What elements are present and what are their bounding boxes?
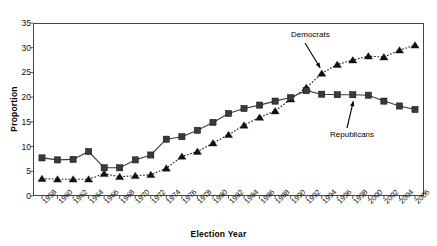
data-point-democrats bbox=[395, 47, 403, 53]
data-point-democrats bbox=[193, 148, 201, 154]
data-point-republicans bbox=[365, 92, 371, 98]
data-point-republicans bbox=[303, 88, 309, 94]
data-point-republicans bbox=[117, 165, 123, 171]
data-point-republicans bbox=[225, 110, 231, 116]
data-point-democrats bbox=[147, 171, 155, 177]
chart-figure: 05101520253035 Proportion Election Year … bbox=[0, 0, 437, 246]
data-point-republicans bbox=[148, 152, 154, 158]
chart-canvas bbox=[0, 0, 437, 246]
data-point-republicans bbox=[54, 157, 60, 163]
data-point-democrats bbox=[209, 140, 217, 146]
data-point-republicans bbox=[257, 102, 263, 108]
data-point-republicans bbox=[39, 155, 45, 161]
data-point-republicans bbox=[272, 98, 278, 104]
data-point-republicans bbox=[241, 105, 247, 111]
data-point-democrats bbox=[162, 165, 170, 171]
data-point-republicans bbox=[334, 92, 340, 98]
data-point-democrats bbox=[318, 70, 326, 76]
data-point-democrats bbox=[38, 175, 46, 181]
data-point-democrats bbox=[53, 176, 61, 182]
data-point-democrats bbox=[256, 114, 264, 120]
annotation-arrow-republicans bbox=[347, 101, 354, 128]
data-point-republicans bbox=[70, 156, 76, 162]
series-line-republicans bbox=[42, 91, 415, 168]
data-point-republicans bbox=[101, 165, 107, 171]
annotation-arrow-democrats bbox=[305, 43, 320, 68]
data-point-republicans bbox=[163, 136, 169, 142]
data-point-republicans bbox=[86, 148, 92, 154]
data-point-democrats bbox=[224, 131, 232, 137]
data-point-republicans bbox=[396, 103, 402, 109]
data-point-republicans bbox=[194, 127, 200, 133]
data-point-democrats bbox=[240, 122, 248, 128]
data-point-republicans bbox=[132, 157, 138, 163]
data-point-republicans bbox=[319, 91, 325, 97]
data-point-republicans bbox=[288, 95, 294, 101]
data-point-republicans bbox=[350, 92, 356, 98]
data-point-republicans bbox=[210, 119, 216, 125]
data-point-republicans bbox=[412, 106, 418, 112]
data-point-democrats bbox=[131, 172, 139, 178]
data-point-democrats bbox=[411, 42, 419, 48]
data-point-republicans bbox=[381, 98, 387, 104]
data-point-republicans bbox=[179, 134, 185, 140]
data-point-democrats bbox=[100, 170, 108, 176]
